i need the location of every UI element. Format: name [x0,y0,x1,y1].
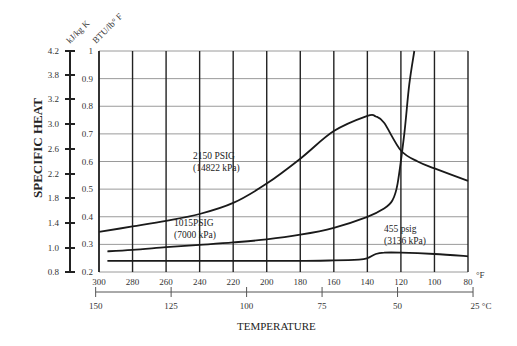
y-tick-btu: 0.8 [82,101,94,111]
y-tick-kj: 2.2 [48,169,59,179]
curve-2150-psig [99,115,468,232]
unit-kj-label: kJ/kg K [64,18,91,45]
unit-btu-label: BTU/lb° F [90,11,124,45]
x-axis-title: TEMPERATURE [237,320,316,332]
curve-1015-psig [107,51,414,251]
y-tick-btu: 0.5 [82,184,94,194]
x-tick-f: 220 [226,277,240,287]
annotation-2150-psig: 2150 PSIG [193,151,235,161]
y-tick-btu: 0.7 [82,129,94,139]
annotation-7000-kpa: (7000 kPa) [174,230,216,241]
y-tick-btu: 0.4 [82,212,94,222]
x-tick-f: 80 [464,277,474,287]
x-tick-c: 100 [240,301,254,311]
x-tick-f: 200 [260,277,274,287]
y-tick-btu: 0.6 [82,157,94,167]
y-tick-kj: 3.0 [48,119,60,129]
x-tick-f: 140 [361,277,375,287]
y-tick-btu: 0.3 [82,239,94,249]
y-tick-kj: 1.0 [48,243,60,253]
x-tick-c: 50 [393,301,403,311]
x-tick-f: 260 [159,277,173,287]
x-tick-f: 160 [327,277,341,287]
plot-axes: 10.90.80.70.60.50.40.30.2300280260240220… [48,46,492,311]
annotation-14822-kpa: (14822 kPa) [193,163,240,174]
specific-heat-chart: 10.90.80.70.60.50.40.30.2300280260240220… [0,0,517,346]
unit-f-label: °F [476,270,485,280]
y-tick-kj: 4.2 [48,46,59,56]
x-tick-c: 150 [89,301,103,311]
x-tick-c: 125 [164,301,178,311]
annotation-1015-psig: 1015PSIG [174,218,214,228]
x-tick-f: 180 [294,277,308,287]
x-tick-f: 300 [92,277,106,287]
x-tick-f: 240 [193,277,207,287]
y-tick-kj: 1.4 [48,218,60,228]
x-tick-f: 100 [428,277,442,287]
annotation-455-psig: 455 psig [384,224,417,234]
y-tick-kj: 2.6 [48,144,60,154]
y-tick-kj: 3.2 [48,94,59,104]
y-tick-btu: 0.2 [82,267,93,277]
y-tick-btu: 0.9 [82,74,94,84]
x-tick-f: 120 [394,277,408,287]
y-tick-kj: 3.8 [48,70,60,80]
x-tick-f: 280 [126,277,140,287]
x-tick-c: 75 [318,301,328,311]
y-tick-btu: 1 [89,46,94,56]
y-tick-kj: 1.8 [48,193,60,203]
annotation-3136-kpa: (3136 kPa) [384,236,426,247]
y-tick-kj: 0.8 [48,267,60,277]
y-axis-title: SPECIFIC HEAT [30,98,45,198]
curve-455-psig [107,252,468,260]
x-tick-c: 25 °C [471,301,492,311]
